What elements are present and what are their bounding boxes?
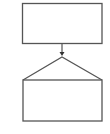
top-box [23,4,103,44]
roof-triangle [23,57,102,80]
flow-diagram [0,0,110,134]
arrow-head-icon [60,52,65,56]
bottom-box [23,80,102,121]
